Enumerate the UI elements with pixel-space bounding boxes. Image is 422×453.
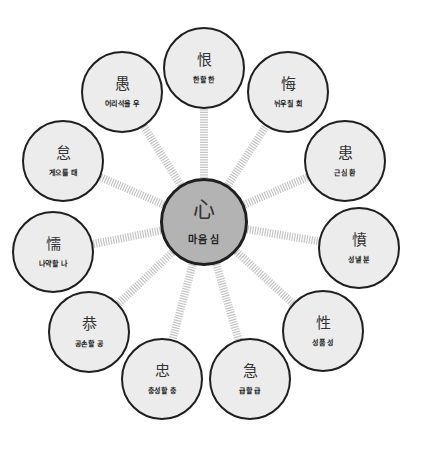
node-hanja-10: 愚어리석을 우 xyxy=(81,51,163,133)
node-hanja-8: 懦나약할 나 xyxy=(12,211,94,293)
node-hanja-9: 怠게으를 태 xyxy=(22,120,104,202)
hanja-meaning: 급할 급 xyxy=(239,385,260,395)
hanja-meaning: 성품 성 xyxy=(312,337,333,347)
hanja-char: 悔 xyxy=(281,77,296,92)
hanja-char: 懦 xyxy=(46,237,61,252)
node-hanja-0: 恨한할 한 xyxy=(163,27,245,109)
node-hanja-7: 恭공손할 공 xyxy=(48,291,130,373)
hanja-char: 恭 xyxy=(82,317,97,332)
hanja-meaning: 공손할 공 xyxy=(75,338,102,348)
center-node: 心마음 심 xyxy=(160,178,248,266)
hanja-meaning: 성낼 분 xyxy=(348,254,369,264)
node-hanja-5: 急급할 급 xyxy=(209,338,291,420)
center-hanja-char: 心 xyxy=(193,199,215,221)
hanja-meaning: 충성할 충 xyxy=(148,385,175,395)
hanja-meaning: 어리석을 우 xyxy=(105,98,139,108)
hanja-char: 急 xyxy=(243,364,258,379)
center-hanja-meaning: 마음 심 xyxy=(188,231,219,246)
hanja-char: 忠 xyxy=(155,364,170,379)
hanja-char: 性 xyxy=(316,316,331,331)
hanja-char: 憤 xyxy=(352,233,367,248)
hanja-meaning: 근심 환 xyxy=(334,167,355,177)
hanja-char: 怠 xyxy=(56,146,71,161)
node-hanja-2: 患근심 환 xyxy=(304,120,386,202)
hanja-char: 恨 xyxy=(197,53,212,68)
hanja-meaning: 한할 한 xyxy=(193,74,214,84)
node-hanja-1: 悔뉘우칠 회 xyxy=(247,51,329,133)
node-hanja-4: 性성품 성 xyxy=(282,290,364,372)
hanja-char: 患 xyxy=(338,146,353,161)
hanja-meaning: 게으를 태 xyxy=(49,167,76,177)
node-hanja-6: 忠충성할 충 xyxy=(121,338,203,420)
hanja-char: 愚 xyxy=(115,77,130,92)
hanja-meaning: 나약할 나 xyxy=(39,258,66,268)
node-hanja-3: 憤성낼 분 xyxy=(318,207,400,289)
radial-hanja-diagram: 恨한할 한 悔뉘우칠 회 患근심 환 憤성낼 분 性성품 성 急급할 급 忠충성… xyxy=(0,0,422,453)
hanja-meaning: 뉘우칠 회 xyxy=(274,98,301,108)
